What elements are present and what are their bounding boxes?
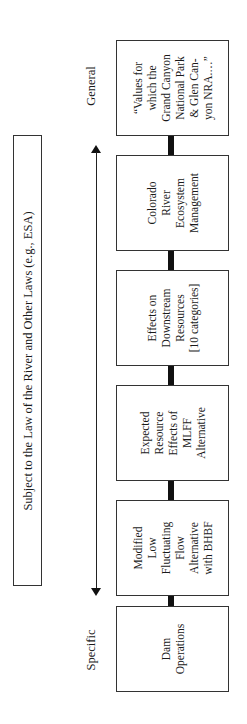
box-dam-text: DamOperations (159, 624, 187, 674)
box-effects-text: Effects onDownstreamResources[10 categor… (145, 284, 201, 353)
box-dam: DamOperations (116, 606, 229, 692)
axis-line (96, 152, 97, 588)
box-values: “Values forwhich theGrand CanyonNational… (116, 40, 229, 136)
box-colorado-text: ColoradoRiverEcosystemManagement (145, 173, 201, 233)
axis-label-general: General (76, 64, 106, 108)
axis-label-specific-text: Specific (84, 630, 99, 671)
law-constraint-box: Subject to the Law of the River and Othe… (13, 135, 42, 586)
box-expected-text: ExpectedResourceEffects ofMLFFAlternativ… (138, 407, 208, 459)
law-constraint-label: Subject to the Law of the River and Othe… (20, 211, 35, 510)
connector (168, 251, 174, 270)
box-modified: ModifiedLowFluctuatingFlowAlternativewit… (116, 500, 229, 596)
axis-label-general-text: General (84, 66, 99, 106)
box-colorado: ColoradoRiverEcosystemManagement (116, 155, 229, 251)
arrow-down-icon (91, 588, 101, 596)
box-values-text: “Values forwhich theGrand CanyonNational… (131, 54, 215, 121)
box-expected: ExpectedResourceEffects ofMLFFAlternativ… (116, 385, 229, 481)
box-effects: Effects onDownstreamResources[10 categor… (116, 270, 229, 366)
box-modified-text: ModifiedLowFluctuatingFlowAlternativewit… (131, 521, 215, 574)
connector (168, 481, 174, 500)
connector (168, 596, 174, 606)
connector (168, 366, 174, 385)
connector (168, 136, 174, 155)
axis-label-specific: Specific (76, 626, 106, 674)
